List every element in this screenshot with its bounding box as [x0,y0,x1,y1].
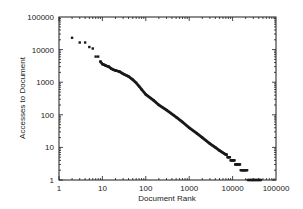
y-tick-label: 100 [41,111,55,120]
axis-ticks [59,17,276,180]
chart: 110100100010000100000 110100100010000100… [0,0,303,209]
data-point [233,159,235,161]
x-tick-label: 1000 [180,184,198,193]
y-tick-label: 100000 [27,13,54,22]
y-axis-label: Accesses to Document [18,56,27,139]
data-point [97,55,99,57]
y-tick-label: 10 [45,143,54,152]
x-tick-label: 10 [98,184,107,193]
x-tick-label: 10000 [221,184,244,193]
x-tick-label: 100000 [263,184,290,193]
plot-frame [59,17,276,180]
data-point [246,169,248,171]
x-tick-labels: 110100100010000100000 [57,184,290,193]
y-tick-label: 1 [50,176,55,185]
data-point [84,41,86,43]
data-point [71,37,73,39]
x-tick-label: 1 [57,184,62,193]
y-tick-label: 1000 [36,78,54,87]
data-point [92,47,94,49]
data-point [260,179,262,181]
y-tick-label: 10000 [32,46,55,55]
data-point [226,154,228,156]
data-point [79,41,81,43]
x-tick-label: 100 [139,184,153,193]
data-point [239,163,241,165]
data-point [94,55,96,57]
x-axis-label: Document Rank [138,194,196,203]
data-point [88,46,90,48]
data-points [71,37,262,181]
data-point [229,156,231,158]
y-tick-labels: 110100100010000100000 [27,13,54,185]
